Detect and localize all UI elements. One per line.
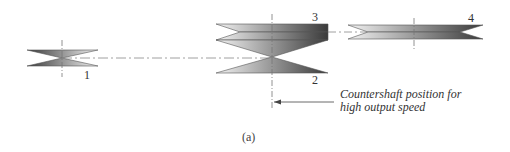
countershaft-arrow bbox=[274, 100, 334, 105]
gear-1-label: 1 bbox=[84, 68, 90, 82]
gear-cluster-2-3 bbox=[216, 14, 328, 108]
annotation-line-1: Countershaft position for bbox=[340, 87, 462, 101]
gear-2-label: 2 bbox=[312, 73, 318, 87]
gear-4 bbox=[348, 18, 483, 50]
gear-3-label: 3 bbox=[312, 10, 318, 24]
gear-train-diagram: 1 2 3 4 Countershaft position for high o… bbox=[0, 0, 510, 152]
gear-4-label: 4 bbox=[468, 11, 474, 25]
figure-label: (a) bbox=[242, 130, 255, 144]
annotation-line-2: high output speed bbox=[340, 100, 426, 114]
